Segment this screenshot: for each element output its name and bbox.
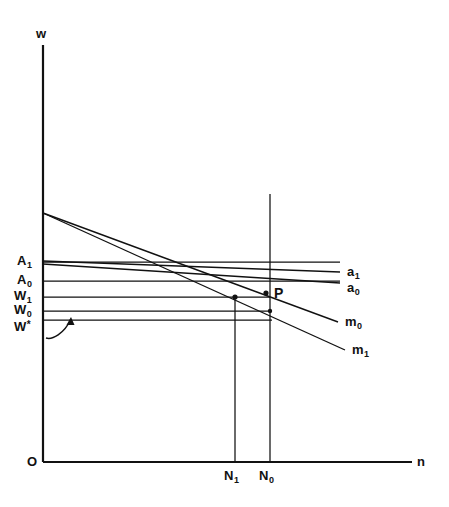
curve-m1-text: m (352, 342, 364, 357)
marker-point-p (263, 290, 268, 295)
x-axis-label: n (417, 455, 425, 468)
origin-label: O (27, 455, 37, 468)
curve-a1-sub: 1 (355, 271, 360, 281)
y-axis-label: w (36, 27, 46, 40)
y-tick-w0-text: W (14, 302, 26, 317)
y-tick-label-a0: A0 (17, 273, 31, 286)
y-tick-w1-text: W (14, 288, 26, 303)
figure-canvas (0, 0, 449, 507)
x-tick-n0-sub: 0 (269, 475, 274, 485)
w-star-arrow-head (67, 317, 75, 325)
x-tick-label-n1: N1 (224, 469, 238, 482)
curve-label-a1: a1 (347, 265, 359, 278)
y-tick-a1-sub: 1 (27, 260, 32, 270)
y-tick-a0-text: A (17, 272, 26, 287)
equilibrium-point-p-label: P (274, 286, 283, 300)
w-star-arrow-curve (46, 319, 71, 338)
axes-group (43, 45, 412, 462)
marker-intersection-n0-low (268, 309, 272, 313)
y-tick-a1-text: A (17, 253, 26, 268)
x-tick-n0-text: N (259, 468, 268, 483)
x-tick-label-n0: N0 (259, 469, 273, 482)
curve-m1-sub: 1 (364, 349, 369, 359)
curve-m0-sub: 0 (357, 321, 362, 331)
y-tick-label-a1: A1 (17, 254, 31, 267)
curve-label-m1: m1 (352, 343, 369, 356)
curve-m0-text: m (345, 314, 357, 329)
y-tick-label-w0: W0 (14, 303, 31, 316)
curve-a1-text: a (347, 264, 354, 279)
curve-label-a0: a0 (347, 281, 359, 294)
x-tick-n1-sub: 1 (234, 475, 239, 485)
vertical-employment-lines (235, 194, 270, 462)
marker-intersection-n1 (232, 294, 237, 299)
y-tick-label-w-star: W* (14, 320, 30, 333)
y-tick-w-star-sup: * (27, 319, 31, 330)
curve-a0-text: a (347, 280, 354, 295)
y-tick-a0-sub: 0 (27, 279, 32, 289)
curve-label-m0: m0 (345, 315, 362, 328)
y-tick-w0-sub: 0 (27, 309, 32, 319)
x-tick-n1-text: N (224, 468, 233, 483)
curve-a0-sub: 0 (355, 287, 360, 297)
y-tick-label-w1: W1 (14, 289, 31, 302)
y-tick-w-star-text: W (14, 319, 26, 334)
wage-employment-figure: w n O A1 A0 W1 W0 W* N1 N0 P a1 a0 m0 m1 (0, 0, 449, 507)
